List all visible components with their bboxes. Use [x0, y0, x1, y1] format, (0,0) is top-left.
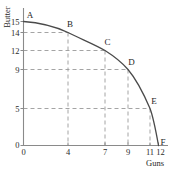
x-tick-label-7: 7	[103, 147, 107, 157]
point-label-f: F	[160, 137, 165, 147]
point-label-c: C	[104, 37, 110, 47]
ppf-chart: 15 14 12 9 5 0 0 4 7 9 11 12 A B C D E F…	[0, 0, 173, 172]
y-tick-label-0: 0	[15, 140, 19, 150]
x-tick-label-9: 9	[126, 147, 130, 157]
y-tick-label-5: 5	[15, 104, 19, 114]
y-tick-label-15: 15	[11, 17, 20, 27]
y-tick-label-12: 12	[11, 46, 20, 56]
x-axis-title: Guns	[146, 158, 164, 168]
x-tick-label-11: 11	[146, 147, 154, 157]
y-axis-title: Butter	[2, 6, 12, 27]
point-label-e: E	[151, 96, 157, 106]
y-tick-label-14: 14	[11, 28, 20, 38]
x-tick-label-4: 4	[66, 147, 71, 157]
y-tick-label-9: 9	[15, 65, 19, 75]
point-label-d: D	[128, 57, 135, 67]
x-tick-label-0: 0	[21, 147, 25, 157]
guide-lines	[24, 33, 151, 146]
ppf-curve	[24, 22, 159, 146]
chart-canvas: 15 14 12 9 5 0 0 4 7 9 11 12 A B C D E F…	[0, 0, 173, 172]
point-label-b: B	[67, 19, 73, 29]
x-tick-label-12: 12	[156, 147, 165, 157]
point-label-a: A	[27, 10, 34, 20]
